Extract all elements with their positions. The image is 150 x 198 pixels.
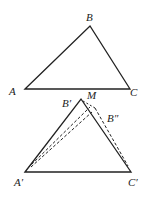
triangle-abc xyxy=(25,26,130,89)
triangle-a-prime-b-prime-c-prime xyxy=(25,99,131,172)
label-a: A xyxy=(8,85,16,97)
dashed-line-a-prime-to-b-double-prime-1 xyxy=(28,107,90,168)
label-b: B xyxy=(86,11,93,23)
dashed-line-a-prime-to-b-double-prime-2 xyxy=(31,112,92,167)
label-b-prime: B′ xyxy=(62,97,72,109)
label-c-prime: C′ xyxy=(128,176,138,188)
label-m: M xyxy=(86,89,97,101)
geometry-diagram: B A C B′ M B″ A′ C′ xyxy=(0,0,150,198)
label-b-double-prime: B″ xyxy=(107,112,119,124)
label-c: C xyxy=(130,86,138,98)
label-a-prime: A′ xyxy=(13,176,24,188)
